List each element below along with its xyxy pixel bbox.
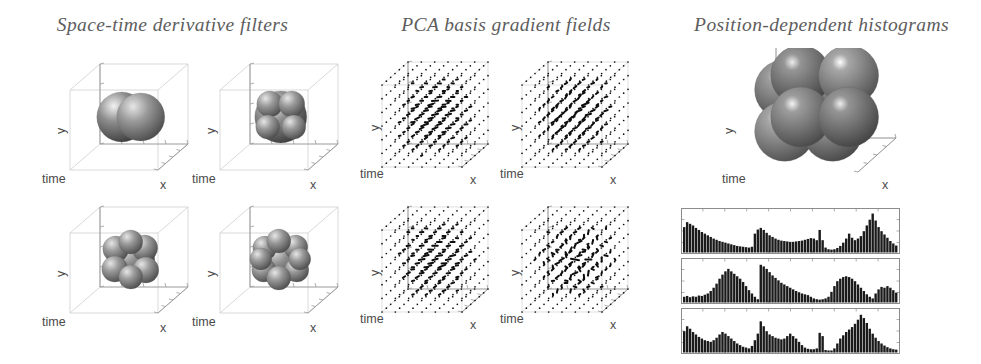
axis-label-x: x (610, 318, 616, 332)
axis-label-x: x (470, 318, 476, 332)
axis-label-y: y (54, 128, 68, 134)
figure-root: Space-time derivative filters PCA basis … (0, 0, 981, 364)
sphere-cluster-panel: ytimex (700, 48, 950, 203)
filter-panel-dy: ytimex (190, 62, 340, 202)
column-title-histograms: Position-dependent histograms (662, 14, 981, 36)
axis-label-time: time (500, 167, 524, 181)
histogram-panel-2 (681, 258, 900, 304)
axis-label-y: y (722, 128, 736, 134)
axis-label-time: time (722, 172, 746, 186)
axis-label-x: x (160, 178, 166, 192)
axis-label-y: y (54, 271, 68, 277)
gradient-field-panel-4: ytimex (500, 200, 640, 345)
axis-label-time: time (360, 167, 384, 181)
axis-label-time: time (42, 315, 66, 329)
axis-label-y: y (204, 128, 218, 134)
filter-panel-dx: ytimex (40, 62, 190, 202)
axis-label-x: x (610, 173, 616, 187)
gradient-field-panel-1: ytimex (360, 55, 500, 200)
axis-label-x: x (310, 178, 316, 192)
axis-label-y: y (508, 125, 522, 131)
axis-label-time: time (192, 172, 216, 186)
axis-label-y: y (204, 271, 218, 277)
histogram-panel-3 (681, 308, 900, 354)
axis-label-time: time (192, 315, 216, 329)
axis-label-x: x (470, 173, 476, 187)
axis-label-time: time (360, 312, 384, 326)
axis-label-x: x (160, 321, 166, 335)
gradient-field-panel-2: ytimex (500, 55, 640, 200)
filter-panel-dxyt: ytimex (190, 205, 340, 345)
axis-label-time: time (42, 172, 66, 186)
column-title-gradient-fields: PCA basis gradient fields (338, 14, 674, 36)
axis-label-x: x (882, 178, 888, 192)
gradient-field-panel-3: ytimex (360, 200, 500, 345)
histogram-panel-1 (681, 208, 900, 254)
axis-label-y: y (508, 270, 522, 276)
axis-label-time: time (500, 312, 524, 326)
axis-label-y: y (368, 270, 382, 276)
axis-label-y: y (368, 125, 382, 131)
column-title-filters: Space-time derivative filters (0, 14, 345, 36)
axis-label-x: x (310, 321, 316, 335)
filter-panel-dxy: ytimex (40, 205, 190, 345)
